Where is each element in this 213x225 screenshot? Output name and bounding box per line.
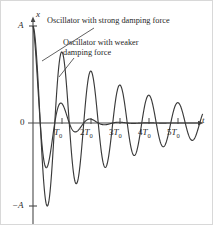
- damped-oscillator-figure: x t A −A 0 T0 2T0 3T0 4T0 5T0 Oscillator…: [0, 0, 213, 225]
- x-axis-label: t: [202, 115, 205, 125]
- x-tick-label-4-sub: 0: [148, 132, 151, 139]
- x-tick-label-2-sub: 0: [90, 132, 93, 139]
- x-tick-label-3: 3T0: [109, 127, 122, 139]
- origin-label: 0: [20, 117, 25, 127]
- x-tick-label-2: 2T0: [80, 127, 93, 139]
- x-tick-label-1-sub: 0: [59, 132, 62, 139]
- plot-svg: [1, 1, 213, 225]
- x-tick-label-4: 4T0: [138, 127, 151, 139]
- y-axis-label: x: [36, 9, 40, 19]
- curve-weaker-damping: [33, 26, 203, 206]
- annotation-weaker-damping-line2: damping force: [63, 48, 111, 58]
- leader-line-weaker: [59, 58, 74, 77]
- x-tick-label-1: T0: [54, 127, 62, 139]
- amplitude-label-positive: A: [18, 20, 24, 30]
- annotation-strong-damping: Oscillator with strong damping force: [47, 16, 170, 26]
- x-tick-label-5-sub: 0: [177, 132, 180, 139]
- annotation-weaker-damping-line1: Oscillator with weaker: [63, 38, 139, 48]
- x-tick-label-3-sub: 0: [119, 132, 122, 139]
- amplitude-label-negative: −A: [12, 200, 24, 210]
- x-tick-label-5: 5T0: [167, 127, 180, 139]
